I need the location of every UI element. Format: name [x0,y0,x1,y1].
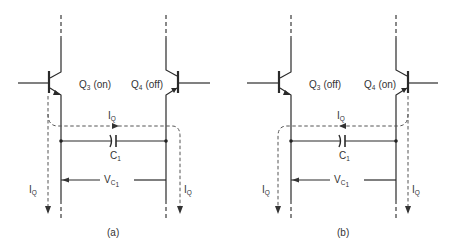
c1-label: C1 [110,150,121,162]
panel-b: Q3(off) Q4(on) IQ C1 VC1 IQ IQ (b) [247,15,438,238]
iq-left-label: IQ [262,184,270,197]
vc1-label: VC1 [104,174,119,188]
iq-top-label: IQ [108,110,116,123]
capacitor-c1 [289,135,398,147]
transistor-q4 [166,15,210,218]
iq-right-label: IQ [412,184,420,197]
iq-top-label: IQ [337,110,345,123]
q3-label: Q3(off) [309,79,341,91]
iq-left-label: IQ [29,184,37,197]
circuit-diagram: Q3(on) Q4(off) IQ C1 VC1 IQ IQ (a) [0,0,453,250]
q4-label: Q4(on) [364,79,396,91]
capacitor-c1 [59,135,168,147]
transistor-q3 [18,15,61,218]
caption-b: (b) [337,227,349,238]
iq-right-label: IQ [184,184,192,197]
vc1-label: VC1 [334,174,349,188]
transistor-q3 [247,15,291,218]
transistor-q4 [396,15,438,218]
c1-label: C1 [339,150,350,162]
q4-label: Q4(off) [131,79,163,91]
q3-label: Q3(on) [79,79,111,91]
panel-a: Q3(on) Q4(off) IQ C1 VC1 IQ IQ (a) [18,15,210,238]
caption-a: (a) [107,227,119,238]
